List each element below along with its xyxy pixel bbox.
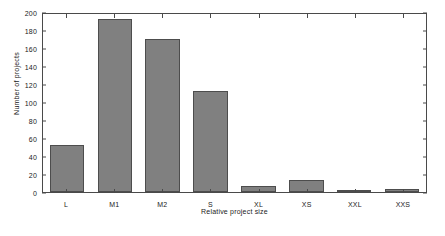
y-axis-tick-mark-right	[423, 85, 427, 86]
y-axis-tick-mark-right	[423, 193, 427, 194]
x-axis-tick-mark	[114, 189, 115, 193]
x-axis-tick-mark	[355, 189, 356, 193]
bar	[50, 145, 84, 192]
y-axis-tick-mark-right	[423, 67, 427, 68]
x-axis-tick-mark	[307, 189, 308, 193]
x-axis-tick-mark-top	[355, 14, 356, 18]
y-axis-tick-mark	[42, 157, 46, 158]
plot-area	[42, 13, 427, 193]
bar-slot	[282, 14, 330, 192]
y-axis-tick-mark	[42, 139, 46, 140]
y-axis-tick-label: 120	[25, 82, 37, 89]
y-axis-tick-mark-right	[423, 49, 427, 50]
y-axis-tick-labels: 020406080100120140160180200	[0, 13, 42, 193]
bar-slot	[139, 14, 187, 192]
bar-slot	[378, 14, 426, 192]
x-axis-tick-mark-top	[66, 14, 67, 18]
x-axis-tick-mark-top	[162, 14, 163, 18]
bar-slot	[91, 14, 139, 192]
y-axis-tick-label: 0	[33, 190, 37, 197]
bar-slot	[235, 14, 283, 192]
y-axis-tick-label: 100	[25, 100, 37, 107]
bar	[145, 39, 179, 192]
y-axis-tick-label: 40	[29, 154, 37, 161]
x-axis-tick-mark	[66, 189, 67, 193]
y-axis-tick-mark-right	[423, 103, 427, 104]
y-axis-tick-mark-right	[423, 175, 427, 176]
bar-series	[43, 14, 426, 192]
x-axis-tick-mark	[259, 189, 260, 193]
y-axis-tick-label: 160	[25, 46, 37, 53]
x-axis-label: Relative project size	[42, 208, 427, 215]
bar	[98, 19, 132, 192]
bar	[193, 91, 227, 192]
bar-chart-figure: Number of projects 020406080100120140160…	[0, 0, 445, 236]
y-axis-tick-mark-right	[423, 157, 427, 158]
y-axis-tick-mark-right	[423, 139, 427, 140]
y-axis-tick-label: 80	[29, 118, 37, 125]
y-axis-tick-mark-right	[423, 13, 427, 14]
x-axis-tick-mark-top	[210, 14, 211, 18]
y-axis-tick-mark-right	[423, 31, 427, 32]
x-axis-tick-mark	[210, 189, 211, 193]
y-axis-tick-label: 20	[29, 172, 37, 179]
y-axis-tick-label: 180	[25, 28, 37, 35]
y-axis-tick-mark-right	[423, 121, 427, 122]
y-axis-tick-label: 140	[25, 64, 37, 71]
bar-slot	[43, 14, 91, 192]
bar-slot	[330, 14, 378, 192]
y-axis-tick-mark	[42, 31, 46, 32]
y-axis-tick-mark	[42, 85, 46, 86]
y-axis-tick-mark	[42, 121, 46, 122]
y-axis-tick-label: 200	[25, 10, 37, 17]
y-axis-tick-mark	[42, 13, 46, 14]
y-axis-tick-mark	[42, 67, 46, 68]
x-axis-tick-mark-top	[259, 14, 260, 18]
y-axis-tick-mark	[42, 193, 46, 194]
y-axis-tick-mark	[42, 175, 46, 176]
x-axis-tick-mark	[403, 189, 404, 193]
x-axis-tick-mark-top	[114, 14, 115, 18]
y-axis-tick-mark	[42, 49, 46, 50]
bar-slot	[187, 14, 235, 192]
x-axis-tick-mark	[162, 189, 163, 193]
x-axis-tick-mark-top	[403, 14, 404, 18]
y-axis-tick-mark	[42, 103, 46, 104]
y-axis-tick-label: 60	[29, 136, 37, 143]
x-axis-tick-mark-top	[307, 14, 308, 18]
